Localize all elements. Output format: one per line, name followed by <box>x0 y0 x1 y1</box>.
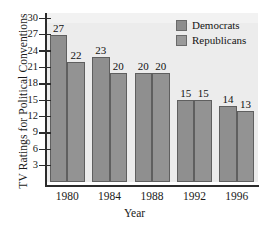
bar-value-label: 23 <box>88 44 114 56</box>
y-tick-mark <box>39 100 51 101</box>
bar-democrats-1984 <box>92 57 110 182</box>
x-tick-label-1992: 1992 <box>173 190 215 202</box>
bar-democrats-1992 <box>177 100 195 182</box>
x-tick-label-1988: 1988 <box>131 190 173 202</box>
bar-republicans-1992 <box>194 100 212 182</box>
legend-swatch-democrats-icon <box>176 20 187 31</box>
x-axis-line <box>45 185 259 187</box>
y-tick-label: 15 <box>16 95 38 105</box>
bar-republicans-1988 <box>152 73 170 182</box>
y-tick-label: 27 <box>16 29 38 39</box>
legend-label-republicans: Republicans <box>192 35 246 46</box>
y-tick-label: 3 <box>16 160 38 170</box>
y-tick-label: 6 <box>16 144 38 154</box>
tv-ratings-bar-chart: TV Ratings for Political Conventions 369… <box>0 0 269 241</box>
bar-value-label: 22 <box>63 49 89 61</box>
legend-swatch-republicans-icon <box>176 35 187 46</box>
y-tick-mark <box>39 132 51 133</box>
legend-item-republicans: Republicans <box>176 34 246 46</box>
bar-democrats-1996 <box>219 106 237 182</box>
x-tick-label-1984: 1984 <box>88 190 130 202</box>
y-tick-mark <box>39 18 51 19</box>
y-tick-mark <box>39 67 51 68</box>
y-tick-label: 24 <box>16 46 38 56</box>
y-tick-mark <box>39 149 51 150</box>
chart-legend: Democrats Republicans <box>176 19 246 49</box>
y-tick-label: 30 <box>16 13 38 23</box>
x-tick-label-1980: 1980 <box>46 190 88 202</box>
x-tick-label-1996: 1996 <box>216 190 258 202</box>
bar-democrats-1988 <box>135 73 153 182</box>
y-tick-mark <box>39 50 51 51</box>
y-tick-mark <box>39 83 51 84</box>
y-tick-mark <box>39 165 51 166</box>
y-tick-label: 12 <box>16 111 38 121</box>
y-tick-mark <box>39 116 51 117</box>
bar-value-label: 20 <box>106 60 132 72</box>
bar-value-label: 27 <box>46 22 72 34</box>
bar-republicans-1980 <box>67 62 85 182</box>
bar-republicans-1984 <box>110 73 128 182</box>
y-tick-label: 21 <box>16 62 38 72</box>
legend-item-democrats: Democrats <box>176 19 246 31</box>
y-tick-label: 18 <box>16 78 38 88</box>
legend-label-democrats: Democrats <box>192 20 240 31</box>
y-tick-label: 9 <box>16 127 38 137</box>
x-axis-title: Year <box>0 207 269 219</box>
y-tick-mark <box>39 34 51 35</box>
bar-value-label: 20 <box>148 60 174 72</box>
bar-value-label: 13 <box>233 98 259 110</box>
bar-republicans-1996 <box>237 111 255 182</box>
bar-value-label: 15 <box>190 87 216 99</box>
